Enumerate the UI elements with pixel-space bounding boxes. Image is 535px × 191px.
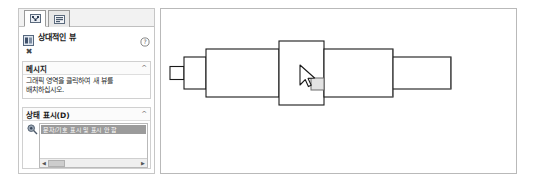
display-state-body: 문자/기호 표시 및 표시 안 함 ◀ ▶ <box>23 121 150 169</box>
configuration-tab[interactable] <box>48 10 70 27</box>
chevron-up-icon[interactable]: ^ <box>141 65 147 72</box>
scrollbar-thumb[interactable] <box>48 160 65 167</box>
cad-graphics-area[interactable] <box>160 8 517 174</box>
display-state-section-header[interactable]: 상태 표시(D) ^ <box>23 108 150 121</box>
stepped-shaft-profile <box>161 9 517 174</box>
list-item[interactable]: 문자/기호 표시 및 표시 안 함 <box>41 125 146 134</box>
message-text: 그래픽 영역을 클릭하여 새 뷰를 배치하십시오. <box>23 75 150 95</box>
chevron-up-icon[interactable]: ^ <box>141 111 147 118</box>
view-placement-preview <box>311 78 324 90</box>
help-question-icon[interactable]: ? <box>140 32 150 42</box>
list-properties-icon <box>54 15 65 24</box>
scroll-right-arrow-icon[interactable]: ▶ <box>139 159 147 167</box>
message-section-label: 메시지 <box>26 63 47 74</box>
display-state-icon <box>25 123 39 169</box>
panel-title-bar: 상대적인 뷰 ? <box>19 28 154 45</box>
display-state-listbox[interactable]: 문자/기호 표시 및 표시 안 함 ◀ ▶ <box>39 123 148 168</box>
close-button[interactable]: ✖ <box>24 47 34 57</box>
scrollbar-track[interactable] <box>48 159 139 167</box>
network-grid-icon <box>30 14 41 23</box>
relative-view-icon <box>23 31 34 42</box>
scroll-left-arrow-icon[interactable]: ◀ <box>40 159 48 167</box>
property-manager-panel: 상대적인 뷰 ? ✖ 메시지 ^ 그래픽 영역을 클릭하여 새 뷰를 배치하십시… <box>18 8 155 174</box>
display-state-section-label: 상태 표시(D) <box>26 109 70 120</box>
horizontal-scrollbar[interactable]: ◀ ▶ <box>40 158 147 167</box>
display-state-section: 상태 표시(D) ^ 문자/기호 표시 및 표시 안 함 ◀ <box>22 107 151 169</box>
message-section-header[interactable]: 메시지 ^ <box>23 62 150 75</box>
svg-text:?: ? <box>143 38 146 45</box>
list-item-label: 문자/기호 표시 및 표시 안 함 <box>43 125 117 134</box>
application-window: 상대적인 뷰 ? ✖ 메시지 ^ 그래픽 영역을 클릭하여 새 뷰를 배치하십시… <box>0 0 535 191</box>
page-title: 상대적인 뷰 <box>38 31 76 42</box>
property-manager-tab[interactable] <box>24 10 46 27</box>
message-section: 메시지 ^ 그래픽 영역을 클릭하여 새 뷰를 배치하십시오. <box>22 61 151 99</box>
panel-tab-strip <box>19 9 154 27</box>
